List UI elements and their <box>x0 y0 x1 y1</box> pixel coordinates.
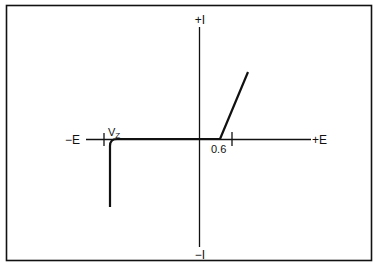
positive-voltage-label: +E <box>312 133 327 147</box>
zener-breakdown-curve <box>110 139 200 207</box>
zener-voltage-label: VZ <box>108 126 120 140</box>
zener-diode-characteristic-diagram: +I −I −E +E VZ 0.6 <box>0 0 377 266</box>
zener-voltage-subscript: Z <box>115 131 120 140</box>
forward-voltage-label: 0.6 <box>211 143 226 155</box>
negative-current-label: −I <box>195 248 205 262</box>
positive-current-label: +I <box>195 13 205 27</box>
negative-voltage-label: −E <box>65 133 80 147</box>
forward-conduction-curve <box>200 72 249 139</box>
